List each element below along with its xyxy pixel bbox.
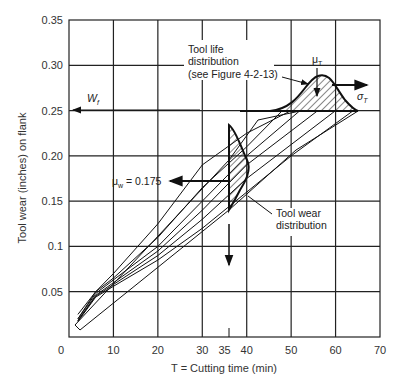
x-tick-label: 0	[58, 344, 64, 356]
tool-wear-distribution	[229, 125, 249, 210]
x-tick-label: 20	[152, 344, 164, 356]
y-tick-label: 0.30	[42, 59, 63, 71]
y-tick-label: 0.35	[42, 14, 63, 26]
y-tick-label: 0.25	[42, 105, 63, 117]
x-tick-label: 60	[329, 344, 341, 356]
x-tick-label: 30	[196, 344, 208, 356]
mu-w-label: μw = 0.175	[112, 175, 162, 189]
y-tick-label: 0.05	[42, 286, 63, 298]
y-axis-label: Tool wear (inches) on flank	[16, 112, 28, 243]
y-tick-label: 0.1	[48, 240, 63, 252]
x-tick-label: 50	[285, 344, 297, 356]
x-axis-label: T = Cutting time (min)	[171, 362, 277, 374]
mu-t-label: μT	[312, 53, 323, 67]
x-tick-label: 10	[107, 344, 119, 356]
x-tick-label: 70	[374, 344, 386, 356]
wf-label: Wf	[87, 92, 100, 106]
x-tick-label: 35	[218, 344, 230, 356]
y-tick-label: 0.15	[42, 195, 63, 207]
sigma-t-label: σT	[357, 90, 368, 104]
tool-life-pointer	[282, 77, 308, 84]
tool-wear-pointer	[248, 196, 272, 214]
tool-wear-annotation: Tool wear distribution	[276, 207, 327, 231]
tool-wear-chart: 010203035405060700.050.10.150.200.250.30…	[0, 0, 403, 392]
tool-life-distribution	[270, 75, 358, 111]
x-tick-label: 40	[241, 344, 253, 356]
y-tick-label: 0.20	[42, 150, 63, 162]
